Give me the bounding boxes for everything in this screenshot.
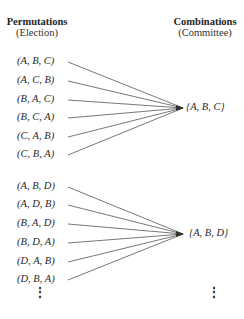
permutation-item: (C, A, B) (17, 130, 54, 141)
connector-line (68, 234, 183, 280)
arrowhead-icon (176, 105, 184, 111)
arrowhead-icon (176, 231, 184, 237)
connector-line (68, 187, 183, 234)
permutation-item: (B, C, A) (17, 111, 54, 122)
permutation-item: (A, D, B) (17, 198, 55, 209)
connector-line (68, 108, 183, 118)
continuation-dots-left: ⋮ (34, 290, 46, 294)
permutation-item: (A, C, B) (17, 74, 54, 85)
connector-line (68, 205, 183, 234)
permutation-item: (C, B, A) (17, 148, 54, 159)
continuation-dots-right: ⋮ (208, 290, 220, 294)
combination-item: {A, B, C} (186, 101, 225, 112)
combination-item: {A, B, D} (189, 227, 228, 238)
connector-line (68, 224, 183, 234)
permutation-item: (D, B, A) (17, 273, 55, 284)
permutation-item: (B, A, C) (17, 93, 54, 104)
permutation-item: (D, A, B) (17, 255, 55, 266)
connector-line (68, 108, 183, 155)
permutation-item: (B, D, A) (17, 236, 55, 247)
connector-lines (0, 0, 244, 319)
permutation-item: (B, A, D) (17, 217, 55, 228)
connector-line (68, 108, 183, 137)
permutation-item: (A, B, D) (17, 180, 55, 191)
permutation-item: (A, B, C) (17, 55, 54, 66)
